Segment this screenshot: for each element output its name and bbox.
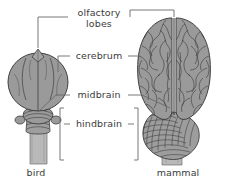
leader-olfactory-mammal	[130, 10, 174, 17]
mammal-brain-illustration	[138, 18, 211, 165]
label-hindbrain: hindbrain	[70, 119, 128, 130]
mammal-cerebrum-left-hemisphere	[138, 18, 172, 119]
brain-comparison-figure: olfactory lobes cerebrum midbrain hindbr…	[0, 0, 232, 190]
mammal-cerebrum-right-hemisphere	[176, 18, 210, 119]
bird-brain-illustration	[8, 49, 68, 164]
caption-bird: bird	[12, 168, 60, 179]
bracket-hindbrain-bird	[60, 108, 64, 160]
label-olfactory-lobes-line2: lobes	[70, 19, 128, 30]
mammal-cerebellum	[139, 112, 199, 160]
label-olfactory-lobes-line1: olfactory	[70, 8, 128, 19]
bird-brainstem	[30, 130, 47, 164]
caption-mammal: mammal	[150, 168, 206, 179]
leader-olfactory-bird	[38, 17, 68, 48]
label-cerebrum: cerebrum	[72, 51, 126, 62]
label-olfactory-lobes: olfactory lobes	[70, 8, 128, 29]
bracket-hindbrain-mammal	[134, 108, 138, 160]
label-midbrain: midbrain	[72, 90, 126, 101]
